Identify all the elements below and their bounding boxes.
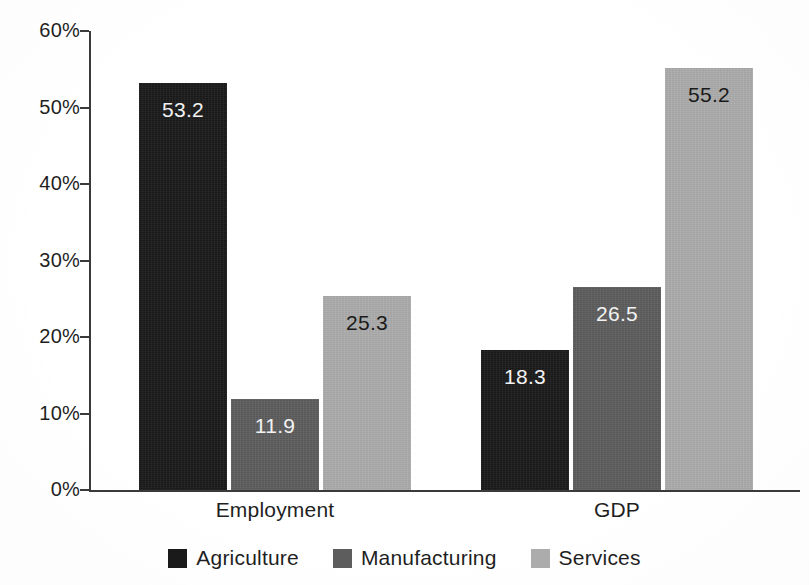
- bar-employment-agriculture: 53.2: [139, 83, 227, 490]
- y-axis-tick-label-text: 0%: [8, 479, 80, 499]
- bar-employment-services: 25.3: [323, 296, 411, 490]
- bar-employment-manufacturing: 11.9: [231, 399, 319, 490]
- bar-gdp-manufacturing: 26.5: [573, 287, 661, 490]
- legend-item-manufacturing: Manufacturing: [333, 547, 497, 569]
- x-axis-label-gdp: GDP: [481, 499, 753, 521]
- legend-swatch-manufacturing-icon: [333, 549, 352, 568]
- x-axis-line: [89, 490, 800, 492]
- y-axis-tick: [80, 260, 89, 262]
- x-axis-label-employment: Employment: [139, 499, 411, 521]
- y-axis-tick-label: 40%: [0, 173, 80, 193]
- legend-item-services: Services: [531, 547, 641, 569]
- legend-swatch-services-icon: [531, 549, 550, 568]
- y-axis-tick: [80, 489, 89, 491]
- y-axis-tick-label: 30%: [0, 250, 80, 270]
- bar-value-label: 53.2: [139, 99, 227, 120]
- legend-label: Services: [559, 547, 641, 569]
- legend-label: Agriculture: [196, 547, 299, 569]
- y-axis-tick-label-text: 40%: [8, 173, 80, 193]
- bar-gdp-services: 55.2: [665, 68, 753, 490]
- y-axis-tick-label: 20%: [0, 326, 80, 346]
- chart-legend: AgricultureManufacturingServices: [0, 547, 809, 569]
- bar-value-label: 18.3: [481, 366, 569, 387]
- y-axis-tick-label-text: 50%: [8, 97, 80, 117]
- plot-area: 53.211.925.318.326.555.2: [89, 31, 800, 490]
- y-axis-tick-label: 10%: [0, 403, 80, 423]
- y-axis-tick: [80, 107, 89, 109]
- y-axis-tick: [80, 183, 89, 185]
- y-axis-tick-label: 60%: [0, 20, 80, 40]
- bar-gdp-agriculture: 18.3: [481, 350, 569, 490]
- bar-value-label: 25.3: [323, 312, 411, 333]
- legend-swatch-agriculture-icon: [168, 549, 187, 568]
- y-axis-tick: [80, 336, 89, 338]
- y-axis-tick-label-text: 20%: [8, 326, 80, 346]
- y-axis-tick: [80, 413, 89, 415]
- y-axis-tick-label: 50%: [0, 97, 80, 117]
- y-axis-tick-label-text: 10%: [8, 403, 80, 423]
- y-axis-tick: [80, 30, 89, 32]
- y-axis-tick-label: 0%: [0, 479, 80, 499]
- legend-item-agriculture: Agriculture: [168, 547, 299, 569]
- bar-value-label: 26.5: [573, 303, 661, 324]
- y-axis-tick-label-text: 60%: [8, 20, 80, 40]
- bar-value-label: 55.2: [665, 84, 753, 105]
- legend-label: Manufacturing: [361, 547, 497, 569]
- bar-value-label: 11.9: [231, 415, 319, 436]
- bar-chart: 60%50%40%30%20%10%0% 53.211.925.318.326.…: [0, 0, 809, 585]
- y-axis-tick-label-text: 30%: [8, 250, 80, 270]
